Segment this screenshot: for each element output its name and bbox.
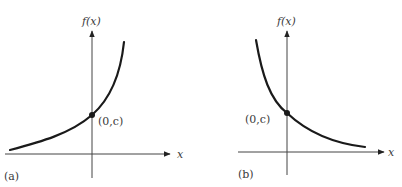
point-label: (0,c): [245, 113, 270, 126]
point-label: (0,c): [98, 115, 123, 128]
panel-label: (a): [4, 170, 19, 183]
figure-canvas: f(x) x (0,c) (a) f(x) x (0,c) (b): [0, 0, 402, 187]
panel-label: (b): [238, 168, 254, 181]
exponential-decay-curve: [256, 40, 365, 147]
exponential-growth-curve: [10, 42, 124, 150]
intercept-point: [89, 112, 95, 118]
y-axis-label: f(x): [276, 15, 296, 28]
y-axis-label: f(x): [81, 15, 101, 28]
x-axis-label: x: [177, 148, 184, 161]
x-axis-label: x: [388, 146, 395, 159]
intercept-point: [284, 110, 290, 116]
panel-b: f(x) x (0,c) (b): [238, 15, 395, 181]
panel-a: f(x) x (0,c) (a): [4, 15, 184, 183]
